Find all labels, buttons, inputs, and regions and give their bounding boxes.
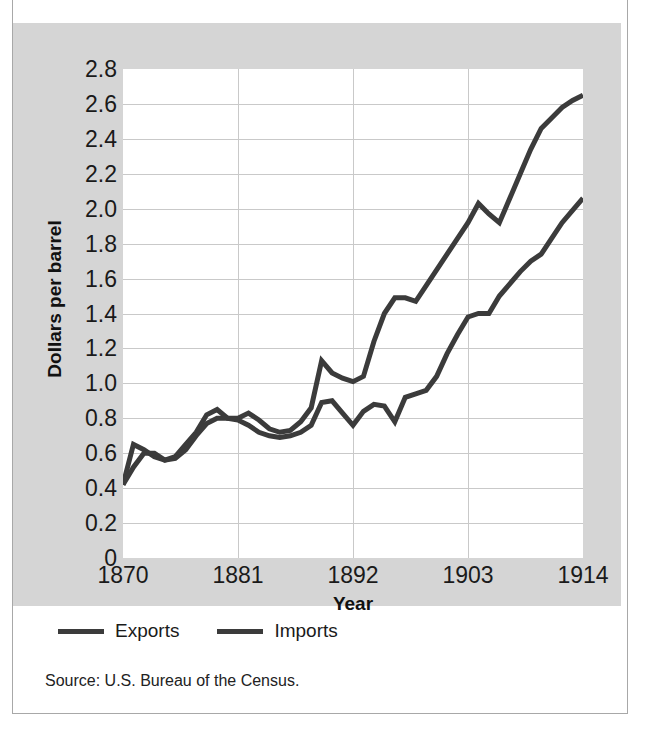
y-axis-tick-label: 0.2 (31, 512, 117, 535)
x-axis-tick-labels: 18701881189219031914 (123, 564, 583, 594)
y-axis-tick-label: 0.4 (31, 477, 117, 500)
legend-swatch-icon (217, 629, 263, 634)
x-axis-title: Year (123, 593, 583, 615)
series-lines (123, 69, 583, 558)
series-line-imports (123, 198, 583, 484)
x-axis-tick-label: 1914 (538, 564, 628, 587)
source-note: Source: U.S. Bureau of the Census. (45, 672, 299, 690)
y-axis-tick-label: 2.6 (31, 93, 117, 116)
chart-legend: ExportsImports (58, 620, 376, 642)
x-axis-tick-label: 1892 (308, 564, 398, 587)
y-axis-tick-labels: 2.82.62.42.22.01.81.61.41.21.00.80.60.40… (29, 69, 117, 558)
legend-item-exports: Exports (58, 620, 179, 642)
y-axis-tick-label: 2.8 (31, 58, 117, 81)
x-axis-tick-label: 1870 (78, 564, 168, 587)
y-axis-tick-label: 2.4 (31, 128, 117, 151)
x-axis-tick-label: 1903 (423, 564, 513, 587)
x-axis-tick-label: 1881 (193, 564, 283, 587)
figure-frame: 2.82.62.42.22.01.81.61.41.21.00.80.60.40… (12, 0, 628, 714)
legend-swatch-icon (58, 629, 104, 634)
plot-area (123, 69, 583, 558)
y-axis-tick-label: 0.6 (31, 442, 117, 465)
y-axis-title: Dollars per barrel (44, 179, 66, 419)
chart-panel: 2.82.62.42.22.01.81.61.41.21.00.80.60.40… (13, 23, 621, 606)
legend-label: Exports (115, 620, 179, 642)
legend-item-imports: Imports (217, 620, 337, 642)
legend-label: Imports (274, 620, 337, 642)
